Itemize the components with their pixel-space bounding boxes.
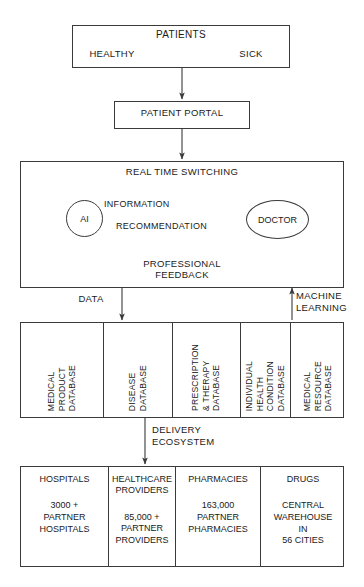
sick-label: SICK — [216, 49, 286, 60]
ecosystem-strip: HOSPITALS3000 + PARTNER HOSPITALSHEALTHC… — [20, 466, 344, 567]
ecosystem-cell: HOSPITALS3000 + PARTNER HOSPITALS — [21, 467, 109, 566]
ai-label: AI — [80, 214, 89, 224]
ecosystem-body: CENTRAL WAREHOUSE IN 56 CITIES — [274, 500, 333, 547]
ecosystem-body: 85,000 + PARTNER PROVIDERS — [115, 512, 168, 547]
ecosystem-heading: PHARMACIES — [188, 474, 248, 485]
information-label: INFORMATION — [104, 199, 224, 209]
data-label: DATA — [62, 294, 120, 305]
database-cell: MEDICAL PRODUCT DATABASE — [21, 323, 104, 417]
real-time-switching-label: REAL TIME SWITCHING — [72, 167, 292, 178]
ecosystem-heading: HOSPITALS — [40, 474, 90, 485]
ai-node: AI — [66, 200, 103, 237]
database-cell: MEDICAL RESOURCE DATABASE — [291, 323, 345, 417]
database-label: MEDICAL PRODUCT DATABASE — [46, 365, 78, 411]
patient-portal-label: PATIENT PORTAL — [114, 108, 250, 119]
machine-learning-label: MACHINE LEARNING — [296, 290, 360, 314]
recommendation-label: RECOMMENDATION — [116, 221, 256, 231]
ecosystem-cell: DRUGSCENTRAL WAREHOUSE IN 56 CITIES — [261, 467, 345, 566]
doctor-node: DOCTOR — [246, 200, 309, 239]
ecosystem-body: 3000 + PARTNER HOSPITALS — [40, 500, 90, 535]
ecosystem-cell: PHARMACIES163,000 PARTNER PHARMACIES — [176, 467, 261, 566]
database-label: INDIVIDUAL HEALTH CONDITION DATABASE — [244, 361, 287, 411]
database-strip: MEDICAL PRODUCT DATABASEDISEASE DATABASE… — [20, 322, 344, 418]
doctor-label: DOCTOR — [258, 215, 297, 225]
database-label: DISEASE DATABASE — [127, 365, 148, 411]
database-cell: INDIVIDUAL HEALTH CONDITION DATABASE — [241, 323, 291, 417]
ecosystem-body: 163,000 PARTNER PHARMACIES — [188, 500, 248, 535]
delivery-ecosystem-label: DELIVERY ECOSYSTEM — [152, 424, 262, 448]
database-label: PRESCRIPTION & THERAPY DATABASE — [190, 344, 222, 411]
ecosystem-heading: DRUGS — [287, 474, 320, 485]
diagram-canvas: PATIENTS HEALTHY SICK PATIENT PORTAL REA… — [0, 0, 364, 587]
database-cell: PRESCRIPTION & THERAPY DATABASE — [173, 323, 241, 417]
professional-feedback-label: PROFESSIONAL FEEDBACK — [72, 259, 292, 281]
ecosystem-heading: HEALTHCARE PROVIDERS — [112, 474, 172, 497]
patients-title: PATIENTS — [72, 29, 290, 41]
database-label: MEDICAL RESOURCE DATABASE — [302, 361, 334, 411]
database-cell: DISEASE DATABASE — [104, 323, 173, 417]
ecosystem-cell: HEALTHCARE PROVIDERS85,000 + PARTNER PRO… — [109, 467, 176, 566]
healthy-label: HEALTHY — [76, 49, 148, 60]
